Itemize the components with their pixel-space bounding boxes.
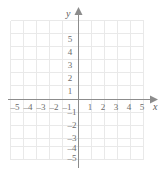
y-tick-label-1: 1 xyxy=(65,87,75,96)
x-tick-label-5: 5 xyxy=(137,103,147,112)
x-tick-label-4: 4 xyxy=(124,103,134,112)
y-tick-label-2: 2 xyxy=(65,74,75,83)
y-tick-label-neg3: –3 xyxy=(66,134,78,143)
coordinate-plane-svg xyxy=(0,0,165,171)
x-tick-label-neg4: –4 xyxy=(22,103,34,112)
y-tick-label-neg2: –2 xyxy=(66,121,78,130)
y-axis-label: y xyxy=(66,9,70,19)
x-tick-label-1: 1 xyxy=(85,103,95,112)
coordinate-plane-figure: –5 –4 –3 –2 –1 1 2 3 4 5 5 4 3 2 1 –1 –2… xyxy=(0,0,165,171)
y-tick-label-3: 3 xyxy=(65,61,75,70)
y-tick-label-neg5: –5 xyxy=(66,154,78,163)
y-tick-label-neg1: –1 xyxy=(66,108,78,117)
y-tick-label-5: 5 xyxy=(65,35,75,44)
x-tick-label-neg2: –2 xyxy=(48,103,60,112)
x-tick-label-3: 3 xyxy=(111,103,121,112)
x-tick-label-neg5: –5 xyxy=(9,103,21,112)
y-tick-label-neg4: –4 xyxy=(66,144,78,153)
y-tick-label-4: 4 xyxy=(65,48,75,57)
x-tick-label-2: 2 xyxy=(98,103,108,112)
x-tick-label-neg3: –3 xyxy=(35,103,47,112)
x-axis-label: x xyxy=(153,102,157,112)
